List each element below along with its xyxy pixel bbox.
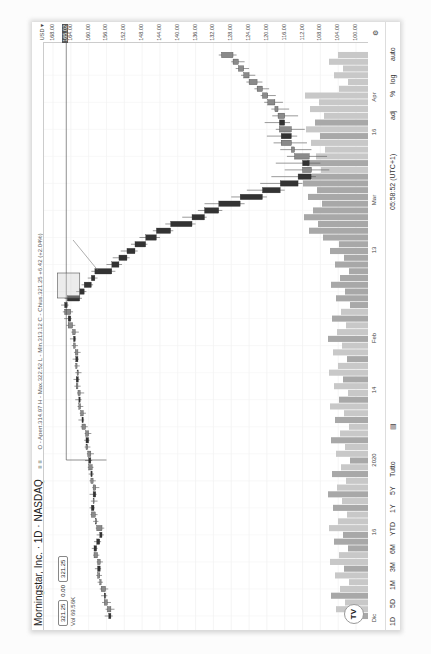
time-label: Mar [371, 195, 377, 205]
spread-value: 0.00 [60, 585, 66, 597]
rotated-frame: Morningstar, Inc. · 1D · NASDAQ ≡ ≡ O - … [32, 22, 400, 630]
price-label: 168.00 [49, 24, 55, 41]
time-label: Dic [371, 614, 377, 623]
price-boxes: 321.25 0.00 321.25 [58, 556, 68, 626]
range-button-6m[interactable]: 6M [389, 544, 396, 554]
chart-widget: Morningstar, Inc. · 1D · NASDAQ ≡ ≡ O - … [32, 22, 400, 630]
crosshair-price-label: 165.02 [62, 24, 68, 43]
option-percent[interactable]: % [389, 91, 396, 97]
range-button-tutto[interactable]: Tutto [389, 461, 396, 477]
price-label: 116.00 [281, 24, 287, 40]
price-label: 148.00 [138, 24, 144, 41]
gear-icon[interactable]: ⚙ [372, 30, 380, 36]
price-label: 124.00 [245, 24, 251, 41]
candlestick-chart [44, 43, 368, 630]
range-button-3m[interactable]: 3M [389, 562, 396, 572]
plot-area[interactable]: 321.25 0.00 321.25 Vol 69.56K TV [43, 42, 368, 630]
ask-price[interactable]: 321.25 [58, 556, 68, 582]
option-adj[interactable]: adj [389, 111, 396, 120]
price-label: 156.00 [102, 24, 108, 41]
tradingview-logo[interactable]: TV [344, 604, 364, 624]
range-button-ytd[interactable]: YTD [389, 522, 396, 536]
calendar-icon[interactable]: ▤ [389, 423, 397, 430]
clock-timezone[interactable]: 05:58:52 (UTC+1) [389, 154, 396, 210]
price-label: 108.00 [316, 24, 322, 41]
price-label: 160.00 [85, 24, 91, 41]
price-label: 152.00 [120, 24, 126, 41]
time-label: 2020 [371, 453, 377, 466]
time-label: Feb [371, 333, 377, 343]
range-button-5d[interactable]: 5D [389, 599, 396, 608]
range-button-1m[interactable]: 1M [389, 580, 396, 590]
time-axis[interactable]: Dic16202014Feb13Mar16Apr [367, 43, 385, 630]
price-label: 112.00 [299, 24, 305, 40]
range-button-1d[interactable]: 1D [389, 617, 396, 626]
range-button-1y[interactable]: 1Y [389, 504, 396, 513]
price-label: 120.00 [263, 24, 269, 41]
option-log[interactable]: log [389, 75, 396, 84]
price-label: 100.00 [352, 24, 358, 41]
time-label: 13 [371, 247, 377, 254]
price-label: 128.00 [227, 24, 233, 41]
price-label: 144.00 [156, 24, 162, 41]
time-label: 14 [371, 387, 377, 394]
price-label: 104.00 [334, 24, 340, 41]
time-label: Apr [371, 92, 377, 101]
bid-price[interactable]: 321.25 [58, 600, 68, 626]
option-auto[interactable]: auto [389, 47, 396, 61]
price-label: 132.00 [209, 24, 215, 41]
volume-label: Vol 69.56K [70, 597, 76, 626]
time-label: 16 [371, 129, 377, 136]
currency-selector[interactable]: USD ▾ [39, 24, 45, 40]
range-button-5y[interactable]: 5Y [389, 486, 396, 495]
price-axis[interactable]: USD ▾168.00164.00160.00156.00152.00148.0… [32, 22, 367, 43]
price-label: 140.00 [174, 24, 180, 41]
time-label: 16 [371, 529, 377, 536]
bottom-toolbar: 1D5D1M3M6MYTD1Y5YTutto▤05:58:52 (UTC+1)a… [385, 22, 401, 630]
price-label: 136.00 [192, 24, 198, 41]
